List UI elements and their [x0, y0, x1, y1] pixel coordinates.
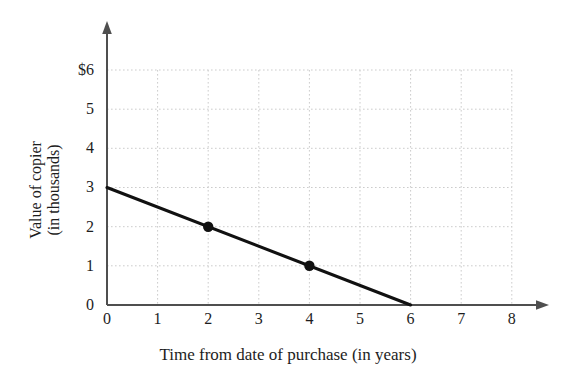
- y-tick-label-2: 2: [58, 219, 94, 235]
- chart-canvas: $6 5 4 3 2 1 0 0 1 2 3 4 5 6 7 8 Time fr…: [0, 0, 576, 374]
- x-tick-label-2: 2: [194, 311, 222, 327]
- y-tick-label-1: 1: [58, 258, 94, 274]
- y-axis-title-line-2: (in thousands): [45, 90, 63, 290]
- x-tick-label-3: 3: [245, 311, 273, 327]
- x-tick-label-1: 1: [144, 311, 172, 327]
- x-tick-label-4: 4: [295, 311, 323, 327]
- x-tick-label-5: 5: [346, 311, 374, 327]
- y-axis-title: Value of copier (in thousands): [27, 90, 63, 290]
- y-tick-label-3: 3: [58, 179, 94, 195]
- x-tick-label-0: 0: [93, 311, 121, 327]
- data-point-4-1: [304, 261, 314, 271]
- data-point-2-2: [203, 222, 213, 232]
- x-axis-title: Time from date of purchase (in years): [0, 345, 576, 365]
- y-axis-title-line-1: Value of copier: [27, 141, 44, 239]
- x-tick-label-7: 7: [447, 311, 475, 327]
- y-axis: [102, 21, 112, 305]
- x-tick-label-8: 8: [498, 311, 526, 327]
- x-axis: [107, 300, 549, 310]
- y-tick-label-4: 4: [58, 140, 94, 156]
- x-tick-label-6: 6: [397, 311, 425, 327]
- y-tick-label-5: 5: [58, 101, 94, 117]
- y-tick-label-6: $6: [58, 62, 94, 78]
- y-tick-label-0: 0: [58, 297, 94, 313]
